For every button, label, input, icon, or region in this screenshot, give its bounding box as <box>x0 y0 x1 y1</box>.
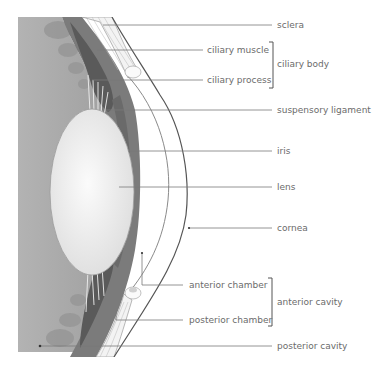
label-lens: lens <box>277 182 296 192</box>
limbus-upper <box>125 66 141 78</box>
label-cornea: cornea <box>277 223 308 233</box>
label-ciliary-body: ciliary body <box>277 59 330 69</box>
label-anterior-chamber: anterior chamber <box>189 280 268 290</box>
leader-dot-cornea <box>188 227 190 229</box>
label-suspensory-ligament: suspensory ligament <box>277 105 371 115</box>
label-sclera: sclera <box>277 20 304 30</box>
label-ciliary-muscle: ciliary muscle <box>207 45 269 55</box>
label-posterior-cavity: posterior cavity <box>277 341 348 351</box>
label-posterior-chamber: posterior chamber <box>189 315 272 325</box>
limbus-lower-mark <box>129 288 137 293</box>
label-iris: iris <box>277 146 291 156</box>
leader-dot-anterior-chamber <box>141 252 143 254</box>
label-ciliary-process: ciliary process <box>207 75 272 85</box>
label-anterior-cavity: anterior cavity <box>277 297 343 307</box>
leader-dot-posterior-cavity <box>39 345 42 348</box>
eye-diagram: sclera ciliary muscle ciliary process ci… <box>0 0 382 368</box>
